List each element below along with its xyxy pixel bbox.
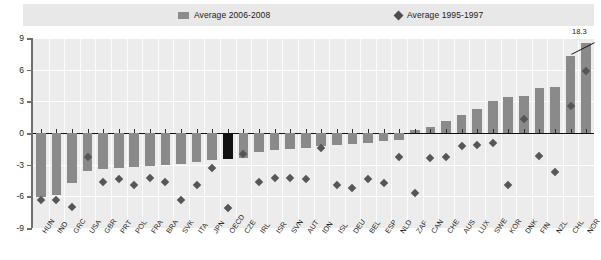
legend-label-bars: Average 2006-2008 xyxy=(194,10,270,20)
marker-BRA xyxy=(161,177,169,185)
x-tick-USA xyxy=(88,129,89,133)
bar-ISL xyxy=(332,133,342,145)
x-tick-NZL xyxy=(555,129,556,133)
x-tick-AUS xyxy=(462,129,463,133)
bar-GRC xyxy=(67,133,77,183)
y-tick-label--3: -3 xyxy=(0,160,24,170)
truncated-value-label: 18.3 xyxy=(572,27,587,36)
x-tick-NLD xyxy=(399,129,400,133)
marker-OECD xyxy=(224,204,232,212)
y-tick--3 xyxy=(27,165,32,167)
chart-root: Average 2006-2008 Average 1995-1997 18.3… xyxy=(0,0,601,260)
bar-KOR xyxy=(503,97,513,133)
bar-FIN xyxy=(535,88,545,133)
marker-DEU xyxy=(348,184,356,192)
bar-IND xyxy=(52,133,62,195)
x-tick-GRC xyxy=(72,129,73,133)
y-tick-label-0: 0 xyxy=(0,128,24,138)
x-tick-JPN xyxy=(212,129,213,133)
marker-PRT xyxy=(114,175,122,183)
bar-FRA xyxy=(145,133,155,166)
legend-label-points: Average 1995-1997 xyxy=(407,10,483,20)
marker-NZL xyxy=(551,168,559,176)
x-tick-CHL xyxy=(571,129,572,133)
bar-BRA xyxy=(161,133,171,165)
x-tick-IND xyxy=(56,129,57,133)
bar-NLD xyxy=(394,133,404,140)
bar-BEL xyxy=(363,133,373,143)
marker-FRA xyxy=(146,174,154,182)
bar-SVN xyxy=(285,133,295,149)
marker-BEL xyxy=(364,175,372,183)
marker-LUX xyxy=(473,140,481,148)
x-tick-ZAF xyxy=(415,129,416,133)
legend-item-average-1995-1997: Average 1995-1997 xyxy=(395,4,483,26)
y-tick-0 xyxy=(27,133,32,135)
marker-POL xyxy=(130,180,138,188)
x-tick-SVK xyxy=(181,129,182,133)
x-tick-SVN xyxy=(290,129,291,133)
x-tick-BRA xyxy=(165,129,166,133)
bar-swatch-icon xyxy=(178,12,189,19)
bar-HUN xyxy=(36,133,46,197)
bar-OECD xyxy=(223,133,233,159)
bar-POL xyxy=(129,133,139,167)
x-tick-POL xyxy=(134,129,135,133)
x-tick-IDN xyxy=(321,129,322,133)
x-tick-PRT xyxy=(119,129,120,133)
x-tick-OECD xyxy=(228,129,229,133)
plot-area xyxy=(33,38,594,228)
marker-ESP xyxy=(379,178,387,186)
marker-ISR xyxy=(270,174,278,182)
marker-AUS xyxy=(457,141,465,149)
marker-CHE xyxy=(442,153,450,161)
x-tick-CZE xyxy=(243,129,244,133)
x-tick-SWE xyxy=(493,129,494,133)
bar-SVK xyxy=(176,133,186,164)
x-tick-ESP xyxy=(384,129,385,133)
x-tick-BEL xyxy=(368,129,369,133)
bar-GBR xyxy=(98,133,108,169)
y-tick--9 xyxy=(27,228,32,230)
x-tick-IRL xyxy=(259,129,260,133)
x-axis-labels: HUNINDGRCUSAGBRPRTPOLFRABRASVKITAJPNOECD… xyxy=(33,230,594,260)
bar-AUT xyxy=(301,133,311,148)
marker-NLD xyxy=(395,153,403,161)
bar-ITA xyxy=(192,133,202,162)
marker-FIN xyxy=(535,152,543,160)
x-tick-LUX xyxy=(477,129,478,133)
y-tick-6 xyxy=(27,70,32,72)
x-tick-CHE xyxy=(446,129,447,133)
x-tick-DNK xyxy=(524,129,525,133)
bar-JPN xyxy=(207,133,217,160)
bar-NZL xyxy=(550,87,560,133)
y-tick-label--9: -9 xyxy=(0,223,24,233)
marker-GBR xyxy=(99,177,107,185)
bar-NOR xyxy=(581,43,591,133)
x-tick-HUN xyxy=(41,129,42,133)
x-tick-AUT xyxy=(306,129,307,133)
y-tick-label-3: 3 xyxy=(0,96,24,106)
bar-ESP xyxy=(379,133,389,141)
bar-CHL xyxy=(566,56,576,133)
x-tick-ISR xyxy=(275,129,276,133)
y-tick-3 xyxy=(27,101,32,103)
x-tick-FRA xyxy=(150,129,151,133)
marker-CAN xyxy=(426,154,434,162)
chart-legend: Average 2006-2008 Average 1995-1997 xyxy=(23,4,594,26)
marker-IRL xyxy=(255,177,263,185)
marker-AUT xyxy=(301,175,309,183)
y-tick-label-9: 9 xyxy=(0,33,24,43)
marker-SWE xyxy=(488,138,496,146)
bar-ISR xyxy=(270,133,280,150)
marker-KOR xyxy=(504,180,512,188)
marker-GRC xyxy=(68,203,76,211)
y-tick--6 xyxy=(27,196,32,198)
x-tick-GBR xyxy=(103,129,104,133)
bar-IRL xyxy=(254,133,264,152)
marker-ISL xyxy=(333,180,341,188)
x-tick-ITA xyxy=(197,129,198,133)
marker-SVN xyxy=(286,174,294,182)
bar-DEU xyxy=(348,133,358,144)
x-tick-NOR xyxy=(586,129,587,133)
